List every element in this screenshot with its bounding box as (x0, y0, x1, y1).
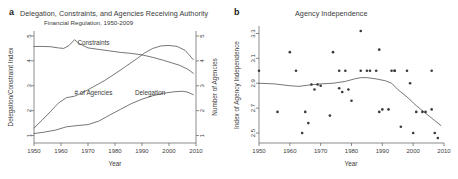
y-tick-label: 2.9 (250, 78, 256, 87)
x-tick-label: 1970 (81, 148, 95, 154)
y-right-tick-label: 4 (199, 59, 205, 63)
scatter-point (295, 70, 298, 73)
y-right-tick-label: 3 (199, 83, 205, 87)
scatter-point (381, 108, 384, 111)
y-left-tick-label: 2 (26, 108, 32, 112)
scatter-point (313, 88, 316, 91)
scatter-point (344, 70, 347, 73)
y-tick-label: 2.5 (250, 128, 256, 137)
x-tick-label: 2000 (406, 148, 420, 154)
y-right-tick-label: 1 (199, 133, 205, 137)
scatter-point (375, 70, 378, 73)
scatter-point (347, 88, 350, 91)
series-line-delegation (34, 91, 193, 133)
scatter-point (424, 111, 427, 114)
x-tick-label: 2000 (162, 148, 176, 154)
scatter-point (421, 111, 424, 114)
scatter-point (338, 87, 341, 90)
scatter-point (412, 132, 415, 135)
panel-a-plot: 12345 12345 1950196019701980199020002010… (0, 0, 229, 179)
y-right-tick-label: 5 (199, 34, 205, 38)
x-tick-label: 1970 (314, 148, 328, 154)
panel-a-x-ticks: 1950196019701980199020002010 (27, 143, 203, 154)
panel-b-y-ticks: 2.52.72.93.13.3 (250, 29, 259, 138)
scatter-point (301, 132, 304, 135)
scatter-point (430, 70, 433, 73)
panel-a-y-left-ticks: 12345 (26, 34, 34, 138)
scatter-point (258, 70, 261, 73)
scatter-point (366, 70, 369, 73)
x-tick-label: 2010 (437, 148, 451, 154)
series-line--of-agencies (34, 45, 193, 128)
scatter-point (289, 51, 292, 54)
x-tick-label: 1990 (135, 148, 149, 154)
scatter-point (304, 111, 307, 114)
panel-a: a Delegation, Constraints, and Agencies … (0, 0, 229, 179)
y-left-tick-label: 3 (26, 83, 32, 87)
x-tick-label: 2010 (189, 148, 203, 154)
scatter-point (430, 108, 433, 111)
scatter-point (415, 111, 418, 114)
panel-b-axes (259, 26, 444, 143)
scatter-point (359, 70, 362, 73)
x-tick-label: 1980 (108, 148, 122, 154)
scatter-point (316, 83, 319, 86)
x-tick-label: 1950 (27, 148, 41, 154)
x-tick-label: 1980 (345, 148, 359, 154)
y-tick-label: 2.7 (250, 103, 256, 112)
scatter-point (310, 83, 313, 86)
panel-a-x-axis-title: Year (109, 160, 123, 167)
scatter-point (400, 126, 403, 129)
panel-b-x-axis-title: Year (345, 160, 359, 167)
y-left-tick-label: 4 (26, 59, 32, 63)
figure-container: a Delegation, Constraints, and Agencies … (0, 0, 458, 179)
scatter-point (378, 111, 381, 114)
y-tick-label: 3.1 (250, 54, 256, 63)
scatter-point (359, 30, 362, 33)
series-label--of-agencies: # of Agencies (74, 89, 112, 97)
scatter-point (378, 48, 381, 51)
x-tick-label: 1950 (252, 148, 266, 154)
y-tick-label: 3.3 (250, 29, 256, 38)
scatter-point (406, 70, 409, 73)
scatter-point (369, 70, 372, 73)
panel-b: b Agency Independence 2.52.72.93.13.3 19… (229, 0, 458, 179)
x-tick-label: 1990 (376, 148, 390, 154)
scatter-point (341, 91, 344, 94)
scatter-point (409, 82, 412, 85)
scatter-point (319, 84, 322, 87)
panel-b-points (258, 30, 439, 140)
scatter-point (350, 99, 353, 102)
series-line-constraints (34, 40, 193, 74)
panel-b-x-ticks: 1950196019701980199020002010 (252, 143, 451, 154)
scatter-point (276, 111, 279, 114)
scatter-point (329, 114, 332, 117)
y-left-tick-label: 5 (26, 34, 32, 38)
y-left-tick-label: 1 (26, 133, 32, 137)
panel-a-y2-axis-title: Number of Agencies (211, 58, 219, 116)
scatter-point (393, 70, 396, 73)
x-tick-label: 1960 (283, 148, 297, 154)
panel-a-series (34, 40, 193, 134)
panel-b-trend (259, 78, 441, 126)
series-label-constraints: Constraints (77, 39, 109, 46)
scatter-point (338, 70, 341, 73)
x-tick-label: 1960 (54, 148, 68, 154)
scatter-point (390, 70, 393, 73)
trend-line (259, 78, 441, 126)
scatter-point (307, 122, 310, 125)
panel-b-plot: 2.52.72.93.13.3 195019601970198019902000… (229, 0, 458, 179)
scatter-point (437, 137, 440, 140)
scatter-point (433, 132, 436, 135)
y-right-tick-label: 2 (199, 108, 205, 112)
panel-a-y-right-ticks: 12345 (196, 34, 205, 138)
panel-b-y-axis-title: Index of Agency Independence (233, 41, 241, 129)
scatter-point (332, 51, 335, 54)
panel-a-y-axis-title: Delegation/Constraint Index (7, 47, 15, 127)
scatter-point (387, 108, 390, 111)
series-label-delegation: Delegation (135, 89, 166, 97)
